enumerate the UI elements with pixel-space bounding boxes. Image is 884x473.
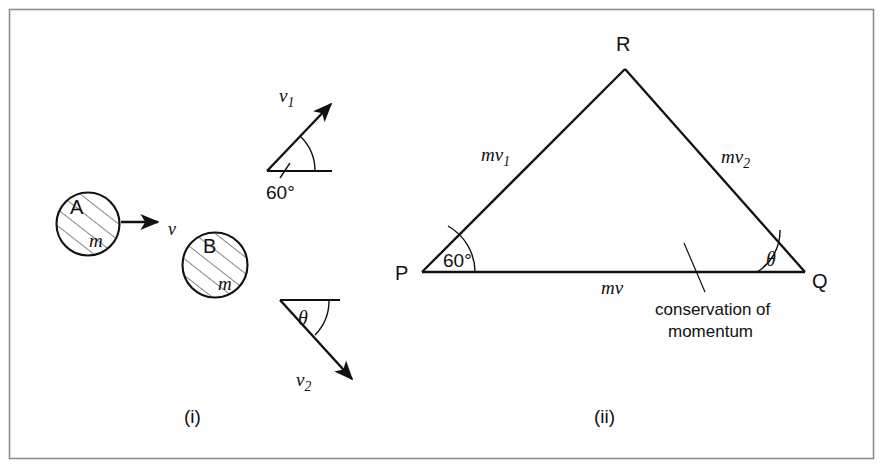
annotation-line-2: momentum <box>668 322 753 341</box>
body-b-mass-label: m <box>218 273 232 294</box>
vector-mv2-label: mv2 <box>721 146 750 171</box>
vector-v1-arrow <box>267 104 331 171</box>
figure-border <box>10 10 874 459</box>
physics-figure: A m v B m <box>0 0 884 473</box>
body-a-hatching <box>50 186 130 266</box>
triangle-side-pr <box>422 69 625 272</box>
vector-v1-group: v1 60° <box>266 85 332 203</box>
vector-v: v <box>121 219 176 239</box>
annotation-leader-line <box>684 243 705 292</box>
body-b: B m <box>176 226 258 308</box>
vector-mv1-label: mv1 <box>481 144 510 169</box>
vector-v2-group: θ v2 <box>280 300 352 394</box>
vector-v2-arrow <box>280 300 352 379</box>
body-a-name: A <box>70 196 84 218</box>
vector-v-label: v <box>168 219 176 239</box>
vector-v1-label: v1 <box>279 85 294 110</box>
triangle-side-rq <box>625 69 805 272</box>
vector-v2-label: v2 <box>296 369 311 394</box>
angle-label-p: 60° <box>443 250 472 271</box>
vertex-label-r: R <box>616 33 630 55</box>
panel-i: A m v B m <box>50 85 352 427</box>
angle-label-q: θ <box>766 248 776 270</box>
vertex-label-q: Q <box>812 270 828 292</box>
angle-label-theta: θ <box>298 307 308 329</box>
panel-i-caption: (i) <box>184 406 201 427</box>
figure-canvas: A m v B m <box>0 0 884 473</box>
annotation-line-1: conservation of <box>655 300 771 319</box>
vector-mv-label: mv <box>601 277 624 298</box>
body-b-name: B <box>203 235 216 257</box>
angle-arc-60 <box>301 137 315 171</box>
body-a-mass-label: m <box>89 230 103 251</box>
angle-label-60: 60° <box>266 182 295 203</box>
body-a: A m <box>50 186 130 266</box>
panel-ii: 60° θ R P Q mv1 mv2 mv conservation of m… <box>395 33 828 427</box>
angle-arc-theta <box>315 300 329 335</box>
body-b-hatching <box>176 226 258 308</box>
panel-ii-caption: (ii) <box>594 406 615 427</box>
vertex-label-p: P <box>395 262 408 284</box>
